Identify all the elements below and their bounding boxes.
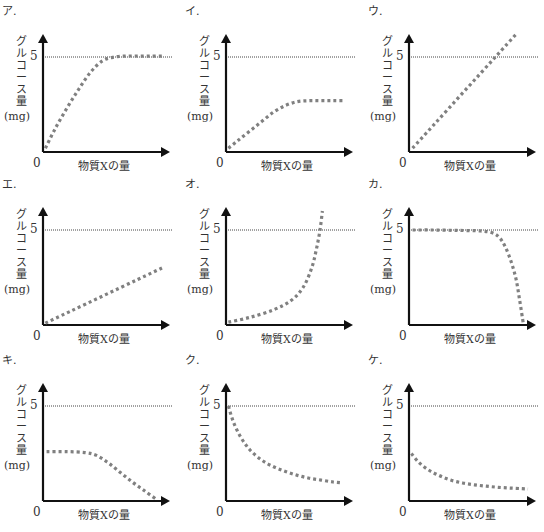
x-axis-arrow-icon [344,320,353,330]
data-curve [411,454,528,490]
plot-area [183,173,364,350]
x-axis-arrow-icon [527,320,536,330]
x-axis-arrow-icon [527,147,536,157]
x-axis-arrow-icon [161,496,170,506]
data-curve [228,101,345,149]
plot-area [0,349,181,526]
plot-area [0,0,181,177]
graph-panel-2: イ. グルコース量 (mg) 5 0 物質Xの量 [183,0,364,177]
graph-panel-1: ア. グルコース量 (mg) 5 0 物質Xの量 [0,0,181,177]
plot-area [0,173,181,350]
x-axis-arrow-icon [344,147,353,157]
graph-panel-3: ウ. グルコース量 (mg) 5 0 物質Xの量 [366,0,544,177]
graph-panel-7: キ. グルコース量 (mg) 5 0 物質Xの量 [0,349,181,526]
graph-panel-6: カ. グルコース量 (mg) 5 0 物質Xの量 [366,173,544,350]
x-axis-arrow-icon [344,496,353,506]
plot-area [183,0,364,177]
y-axis-arrow-icon [221,34,231,43]
x-axis-arrow-icon [161,147,170,157]
graph-panel-8: ク. グルコース量 (mg) 5 0 物質Xの量 [183,349,364,526]
data-curve [45,56,162,148]
y-axis-arrow-icon [404,34,414,43]
graph-panel-9: ケ. グルコース量 (mg) 5 0 物質Xの量 [366,349,544,526]
data-curve [45,268,162,323]
y-axis-arrow-icon [221,207,231,216]
y-axis-arrow-icon [38,34,48,43]
data-curve [413,230,524,323]
data-curve [47,452,156,500]
graph-panel-5: オ. グルコース量 (mg) 5 0 物質Xの量 [183,173,364,350]
plot-area [183,349,364,526]
plot-area [366,0,544,177]
plot-area [366,349,544,526]
data-curve [413,34,517,148]
x-axis-arrow-icon [527,496,536,506]
x-axis-arrow-icon [161,320,170,330]
data-curve [228,211,322,322]
y-axis-arrow-icon [404,207,414,216]
y-axis-arrow-icon [38,207,48,216]
plot-area [366,173,544,350]
y-axis-arrow-icon [38,383,48,392]
y-axis-arrow-icon [404,383,414,392]
graph-panel-4: エ. グルコース量 (mg) 5 0 物質Xの量 [0,173,181,350]
y-axis-arrow-icon [221,383,231,392]
data-curve [228,406,342,483]
